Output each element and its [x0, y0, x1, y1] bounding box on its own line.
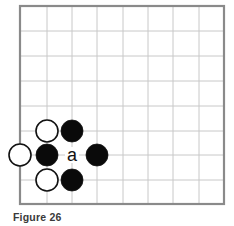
- white-stone: [9, 144, 31, 166]
- black-stone: [61, 120, 83, 142]
- black-stone: [86, 144, 108, 166]
- point-label-a: a: [67, 145, 78, 165]
- figure-caption: Figure 26: [13, 211, 61, 223]
- labels-layer: a: [65, 145, 79, 165]
- black-stone: [61, 169, 83, 191]
- white-stone: [36, 169, 58, 191]
- white-stone: [36, 120, 58, 142]
- black-stone: [36, 144, 58, 166]
- go-board-diagram: a: [0, 0, 234, 210]
